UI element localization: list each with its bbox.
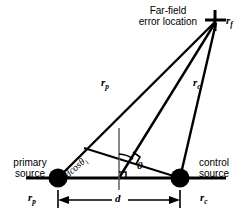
theta-label: θ — [137, 160, 143, 172]
rc-axis-label: rc — [200, 192, 208, 206]
diagram-canvas — [0, 0, 243, 220]
rf-label: rf — [226, 15, 233, 29]
control-source-caption-line2: source — [186, 169, 242, 180]
rc-path-label: rc — [193, 77, 201, 91]
far-field-caption: Far-field error location — [128, 6, 208, 28]
wavefront-line — [84, 148, 180, 178]
separation-label: d — [115, 193, 121, 205]
primary-source-caption: primary source — [2, 158, 58, 180]
primary-source-caption-line2: source — [2, 169, 58, 180]
rp-path-label: rp — [101, 77, 109, 91]
center-ray — [119, 23, 215, 178]
rc-ray — [180, 23, 216, 178]
rp-axis-label: rp — [28, 192, 36, 206]
control-source-caption: control source — [186, 158, 242, 180]
theta-arc — [119, 154, 133, 159]
far-field-geometry-diagram: Far-field error location rf rp rc primar… — [0, 0, 243, 220]
far-field-caption-line2: error location — [128, 17, 208, 28]
